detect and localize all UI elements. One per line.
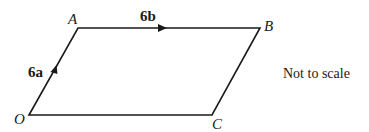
vertex-label-b: B [264, 18, 273, 34]
vector-label-ab: 6b [140, 8, 156, 24]
parallelogram-oabc [29, 28, 260, 115]
not-to-scale-note: Not to scale [283, 66, 350, 81]
arrow-ab-icon [158, 24, 167, 32]
vertex-label-c: C [212, 116, 223, 132]
vector-oa-symbol: a [36, 64, 44, 80]
vector-label-oa: 6a [28, 64, 44, 80]
parallelogram-diagram: A B O C 6a 6b Not to scale [0, 0, 369, 132]
vertex-label-o: O [14, 111, 25, 127]
vector-ab-symbol: b [148, 8, 156, 24]
arrow-oa-icon [51, 65, 58, 74]
vertex-label-a: A [67, 11, 78, 27]
